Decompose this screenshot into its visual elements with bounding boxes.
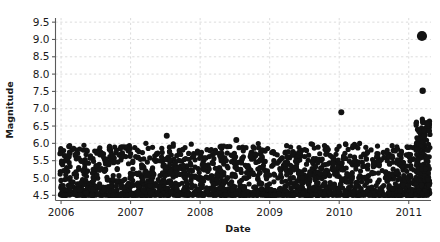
scatter-point (264, 193, 269, 198)
x-tick-label: 2009 (256, 206, 283, 218)
scatter-point (291, 151, 296, 156)
scatter-point (404, 193, 409, 198)
scatter-point (383, 176, 388, 181)
scatter-point (257, 179, 262, 184)
scatter-point (307, 185, 312, 190)
scatter-point (60, 162, 65, 167)
y-tick-label: 7.5 (33, 85, 50, 97)
scatter-point (348, 153, 353, 158)
scatter-point (419, 182, 424, 187)
scatter-point (97, 168, 102, 173)
scatter-point (322, 180, 327, 185)
scatter-point (285, 181, 290, 186)
scatter-point (159, 154, 164, 159)
scatter-point (200, 185, 205, 190)
scatter-point (377, 162, 382, 167)
scatter-point (337, 144, 342, 149)
scatter-point (295, 183, 300, 188)
scatter-point (81, 143, 86, 148)
scatter-point (271, 179, 276, 184)
scatter-point (240, 156, 245, 161)
scatter-point (285, 192, 290, 197)
scatter-point (406, 152, 411, 157)
scatter-point (293, 159, 298, 164)
scatter-point (115, 167, 120, 172)
scatter-point (331, 167, 336, 172)
scatter-point (404, 164, 409, 169)
scatter-point (183, 175, 188, 180)
scatter-point (382, 192, 387, 197)
scatter-point (313, 164, 318, 169)
scatter-point (164, 193, 169, 198)
scatter-point (169, 189, 174, 194)
scatter-point (423, 166, 428, 171)
scatter-point (223, 192, 228, 197)
scatter-point (102, 187, 107, 192)
scatter-point (425, 177, 430, 182)
scatter-point (365, 163, 370, 168)
scatter-point (197, 170, 202, 175)
scatter-point (233, 191, 238, 196)
scatter-point (385, 148, 390, 153)
scatter-point (89, 193, 94, 198)
scatter-point (397, 175, 402, 180)
y-tick-label: 5.0 (33, 172, 50, 184)
scatter-point (417, 31, 427, 41)
scatter-point (351, 189, 356, 194)
scatter-point (255, 173, 260, 178)
scatter-point (407, 158, 412, 163)
scatter-point (250, 170, 255, 175)
scatter-point (128, 154, 133, 159)
scatter-point (321, 191, 326, 196)
scatter-point (207, 148, 212, 153)
scatter-point (78, 193, 83, 198)
scatter-point (301, 191, 306, 196)
scatter-point (404, 144, 409, 149)
scatter-point (395, 147, 400, 152)
scatter-point (364, 157, 369, 162)
scatter-point (350, 143, 355, 148)
scatter-point (201, 158, 206, 163)
scatter-point (250, 193, 255, 198)
scatter-point (409, 166, 414, 171)
scatter-point (304, 148, 309, 153)
scatter-point (125, 182, 130, 187)
scatter-point (285, 149, 290, 154)
scatter-point (296, 145, 301, 150)
scatter-point (154, 151, 159, 156)
scatter-point (110, 192, 115, 197)
scatter-point (288, 175, 293, 180)
scatter-point (233, 137, 239, 143)
x-tick-label: 2008 (187, 206, 214, 218)
scatter-point (140, 150, 145, 155)
y-tick-labels: 4.55.05.56.06.57.07.58.08.59.09.5 (33, 16, 50, 201)
x-tick-label: 2007 (117, 206, 144, 218)
scatter-point (68, 164, 73, 169)
scatter-point (207, 154, 212, 159)
scatter-point (371, 161, 376, 166)
scatter-point (145, 171, 150, 176)
scatter-point (338, 182, 343, 187)
scatter-point (348, 179, 353, 184)
scatter-point (311, 156, 316, 161)
scatter-point (406, 183, 411, 188)
scatter-point (343, 142, 348, 147)
scatter-point (140, 177, 145, 182)
scatter-point (77, 146, 82, 151)
y-tick-label: 5.5 (33, 154, 50, 166)
scatter-point (252, 151, 257, 156)
scatter-point (181, 187, 186, 192)
scatter-point (241, 192, 246, 197)
scatter-point (390, 186, 395, 191)
scatter-point (128, 191, 133, 196)
scatter-point (232, 161, 237, 166)
scatter-point (272, 151, 277, 156)
scatter-point (344, 165, 349, 170)
scatter-point (253, 160, 258, 165)
scatter-point (320, 157, 325, 162)
scatter-point (119, 155, 124, 160)
scatter-point (175, 193, 180, 198)
scatter-point (230, 173, 235, 178)
scatter-point (322, 171, 327, 176)
scatter-point (328, 180, 333, 185)
